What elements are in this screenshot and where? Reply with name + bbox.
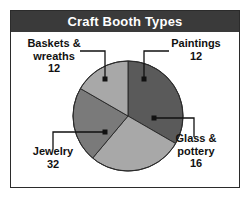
pie-chart-plot-area: Baskets & wreaths 12 Paintings 12 Glass … [11,32,239,187]
chart-title-bar: Craft Booth Types [11,11,239,32]
leader-dot-paintings [142,77,147,82]
pie-label-paintings-line1: Paintings [171,37,221,49]
pie-label-glass-pottery-line2: pottery [159,145,233,158]
pie-label-jewelry-value: 32 [15,158,91,171]
chart-figure: Craft Booth Types [10,10,240,188]
pie-label-glass-pottery-line1: Glass & [176,132,217,144]
leader-dot-baskets-wreaths [103,77,108,82]
page-title: Craft Booth Types [67,14,182,29]
leader-dot-glass-pottery [152,116,157,121]
pie-label-paintings: Paintings 12 [157,37,235,62]
pie-label-baskets-wreaths: Baskets & wreaths 12 [15,37,93,75]
leader-dot-jewelry [103,130,108,135]
pie-label-paintings-value: 12 [157,50,235,63]
pie-label-baskets-wreaths-line2: wreaths [15,50,93,63]
pie-label-jewelry: Jewelry 32 [15,145,91,170]
pie-label-glass-pottery-value: 16 [159,157,233,170]
pie-label-baskets-wreaths-value: 12 [15,62,93,75]
pie-label-glass-pottery: Glass & pottery 16 [159,132,233,170]
pie-label-baskets-wreaths-line1: Baskets & [27,37,80,49]
pie-label-jewelry-line1: Jewelry [33,145,73,157]
